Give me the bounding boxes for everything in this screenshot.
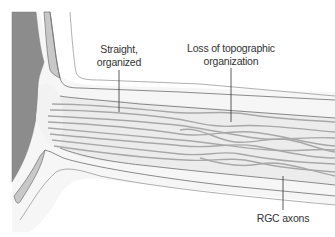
label-straight-line2: organized xyxy=(91,56,147,69)
label-loss-of-topographic-organization: Loss of topographic organization xyxy=(176,42,286,68)
label-rgc-text: RGC axons xyxy=(253,212,313,225)
optic-nerve-diagram: Straight, organized Loss of topographic … xyxy=(0,0,335,237)
label-loss-line2: organization xyxy=(176,55,286,68)
diagram-canvas xyxy=(0,0,335,237)
label-rgc-axons: RGC axons xyxy=(253,212,313,225)
label-straight-line1: Straight, xyxy=(91,43,147,56)
label-loss-line1: Loss of topographic xyxy=(176,42,286,55)
label-straight-organized: Straight, organized xyxy=(91,43,147,69)
